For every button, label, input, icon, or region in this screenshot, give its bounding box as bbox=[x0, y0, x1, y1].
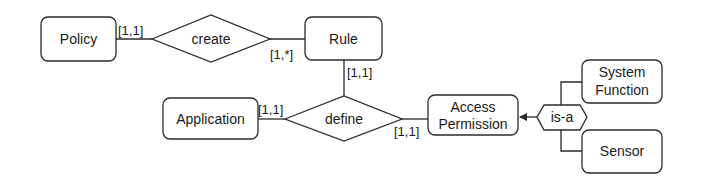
entity-rule[interactable]: Rule bbox=[305, 17, 382, 60]
entity-system-function[interactable]: System Function bbox=[582, 60, 662, 103]
cardinality-create-rule: [1,*] bbox=[270, 47, 293, 62]
relationship-create[interactable]: create bbox=[152, 15, 270, 62]
entity-rule-label: Rule bbox=[329, 31, 358, 47]
er-diagram: Policy create Rule define Application Ac… bbox=[0, 0, 702, 187]
entity-access-permission[interactable]: Access Permission bbox=[428, 95, 518, 135]
relationship-define-label: define bbox=[325, 111, 363, 127]
cardinality-define-access-permission: [1,1] bbox=[394, 124, 419, 139]
relationship-create-label: create bbox=[192, 31, 231, 47]
specialization-is-a[interactable]: is-a bbox=[537, 105, 587, 130]
cardinality-rule-define: [1,1] bbox=[347, 65, 372, 80]
entity-sensor-label: Sensor bbox=[600, 143, 645, 159]
entity-application[interactable]: Application bbox=[163, 98, 258, 139]
entity-application-label: Application bbox=[176, 111, 245, 127]
entity-sensor[interactable]: Sensor bbox=[582, 130, 662, 173]
cardinality-policy-create: [1,1] bbox=[118, 23, 143, 38]
entity-system-function-label-line2: Function bbox=[595, 82, 649, 98]
is-a-sensor-connector bbox=[561, 130, 582, 151]
relationship-define[interactable]: define bbox=[285, 96, 402, 141]
is-a-system-function-connector bbox=[561, 82, 582, 105]
entity-policy-label: Policy bbox=[60, 31, 97, 47]
entity-system-function-label-line1: System bbox=[599, 64, 646, 80]
entity-policy[interactable]: Policy bbox=[41, 17, 116, 61]
entity-access-permission-label-line1: Access bbox=[450, 99, 495, 115]
cardinality-application-define: [1,1] bbox=[258, 102, 283, 117]
specialization-is-a-label: is-a bbox=[551, 109, 574, 125]
entity-access-permission-label-line2: Permission bbox=[438, 116, 507, 132]
